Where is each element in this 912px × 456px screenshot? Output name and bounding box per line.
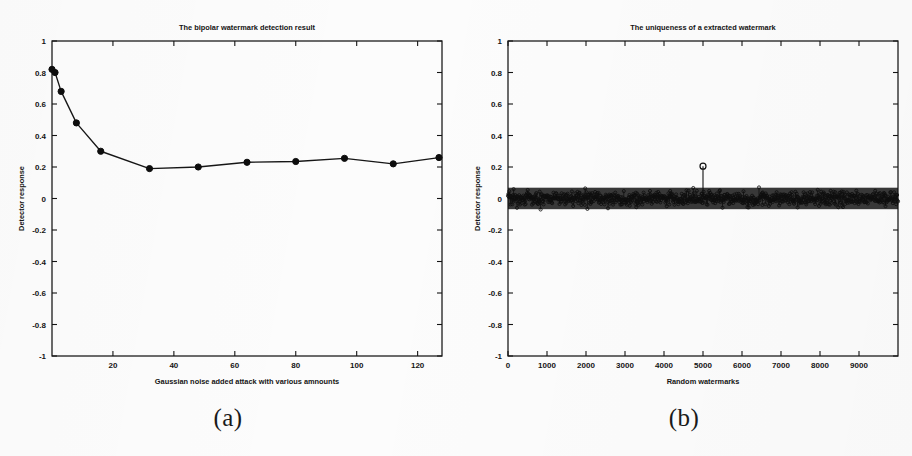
- chart-b-xticklabel: 1000: [538, 361, 556, 370]
- chart-a-yticklabel: -0.8: [32, 321, 46, 330]
- chart-a-yticklabel: -0.4: [32, 258, 46, 267]
- panel-a-caption: (a): [0, 404, 456, 432]
- chart-b-xticklabel: 8000: [811, 361, 829, 370]
- chart-a-ylabel: Detector response: [17, 166, 26, 231]
- chart-b-yticklabel: -0.8: [488, 321, 502, 330]
- chart-a-data-point: [293, 158, 299, 164]
- figure-panel-b: The uniqueness of a extracted watermark0…: [456, 0, 912, 456]
- chart-b-title: The uniqueness of a extracted watermark: [630, 23, 776, 32]
- figure-panel-a: The bipolar watermark detection result20…: [0, 0, 456, 456]
- plot-b: The uniqueness of a extracted watermark0…: [456, 0, 912, 400]
- chart-b-yticklabel: 0.8: [491, 69, 503, 78]
- chart-b-yticklabel: 0: [498, 195, 503, 204]
- chart-a-yticklabel: 1: [42, 37, 47, 46]
- chart-b-yticklabel: 0.4: [491, 132, 503, 141]
- chart-a-data-point: [58, 88, 64, 94]
- chart-b-yticklabel: 1: [498, 37, 503, 46]
- panel-b-caption: (b): [456, 404, 912, 432]
- chart-b-yticklabel: -0.2: [488, 226, 502, 235]
- chart-a-data-point: [390, 161, 396, 167]
- chart-a-yticklabel: -0.2: [32, 226, 46, 235]
- chart-a-axes-box: [52, 41, 442, 356]
- chart-b-yticklabel: -0.6: [488, 289, 502, 298]
- chart-b-yticklabel: 0.2: [491, 163, 503, 172]
- chart-a-data-point: [146, 165, 152, 171]
- chart-a-yticklabel: 0.2: [35, 163, 47, 172]
- chart-b-xticklabel: 2000: [577, 361, 595, 370]
- chart-a-data-point: [73, 120, 79, 126]
- chart-b-yticklabel: 0.6: [491, 100, 503, 109]
- chart-b-xticklabel: 6000: [733, 361, 751, 370]
- chart-b-xticklabel: 4000: [655, 361, 673, 370]
- chart-b-xticklabel: 7000: [772, 361, 790, 370]
- chart-a-xticklabel: 40: [169, 361, 178, 370]
- chart-a-yticklabel: 0: [42, 195, 47, 204]
- chart-b-xticklabel: 9000: [850, 361, 868, 370]
- chart-a-data-point: [98, 148, 104, 154]
- chart-b-yticklabel: -0.4: [488, 258, 502, 267]
- chart-a-data-point: [195, 164, 201, 170]
- chart-a-xticklabel: 80: [291, 361, 300, 370]
- chart-a-title: The bipolar watermark detection result: [179, 23, 315, 32]
- chart-b-xticklabel: 3000: [616, 361, 634, 370]
- chart-b-xticklabel: 0: [506, 361, 511, 370]
- chart-a-yticklabel: 0.8: [35, 69, 47, 78]
- chart-b-svg: The uniqueness of a extracted watermark0…: [456, 0, 912, 400]
- chart-a-yticklabel: -0.6: [32, 289, 46, 298]
- chart-a-data-point: [244, 159, 250, 165]
- chart-b-xlabel: Random watermarks: [667, 377, 740, 386]
- chart-a-yticklabel: 0.6: [35, 100, 47, 109]
- chart-a-svg: The bipolar watermark detection result20…: [0, 0, 456, 400]
- chart-a-xticklabel: 120: [411, 361, 425, 370]
- chart-a-yticklabel: 0.4: [35, 132, 47, 141]
- plot-a: The bipolar watermark detection result20…: [0, 0, 456, 400]
- chart-a-data-point: [52, 69, 58, 75]
- figure-page: The bipolar watermark detection result20…: [0, 0, 912, 456]
- chart-b-ylabel: Detector response: [473, 166, 482, 231]
- chart-b-xticklabel: 5000: [694, 361, 712, 370]
- chart-b-yticklabel: -1: [495, 352, 503, 361]
- chart-a-xlabel: Gaussian noise added attack with various…: [155, 377, 339, 386]
- chart-a-xticklabel: 20: [108, 361, 117, 370]
- chart-a-yticklabel: -1: [39, 352, 47, 361]
- chart-a-xticklabel: 60: [230, 361, 239, 370]
- chart-a-series-line: [52, 69, 439, 168]
- chart-a-xticklabel: 100: [350, 361, 364, 370]
- chart-a-data-point: [341, 155, 347, 161]
- chart-a-data-point: [436, 154, 442, 160]
